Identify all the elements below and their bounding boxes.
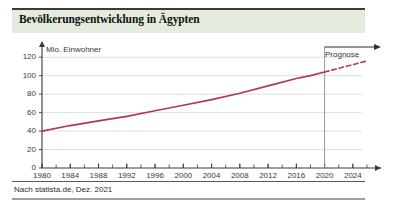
x-axis-arrow bbox=[375, 165, 381, 171]
y-tick-label: 20 bbox=[14, 145, 36, 154]
y-tick-label: 120 bbox=[14, 52, 36, 61]
y-tick-label: 60 bbox=[14, 108, 36, 117]
data-series bbox=[42, 61, 367, 131]
source-note: Nach statista.de, Dez. 2021 bbox=[14, 185, 112, 194]
axes bbox=[39, 41, 381, 171]
y-axis-label: Mio. Einwohner bbox=[46, 45, 101, 54]
population-line bbox=[42, 72, 325, 131]
footer-rule-top bbox=[12, 181, 365, 182]
y-tick-label: 80 bbox=[14, 89, 36, 98]
gridlines bbox=[42, 57, 362, 149]
y-tick-label: 40 bbox=[14, 126, 36, 135]
y-axis-arrow bbox=[39, 41, 45, 47]
footer-rule-bottom bbox=[12, 198, 365, 200]
y-tick-label: 100 bbox=[14, 71, 36, 80]
x-tick-label: 2024 bbox=[336, 171, 370, 180]
forecast-line bbox=[325, 61, 367, 72]
prognose-arrow bbox=[374, 44, 381, 50]
prognose-label: Prognose bbox=[325, 50, 359, 59]
chart-figure: Bevölkerungsentwicklung in Ägypten Mio. … bbox=[0, 0, 397, 206]
